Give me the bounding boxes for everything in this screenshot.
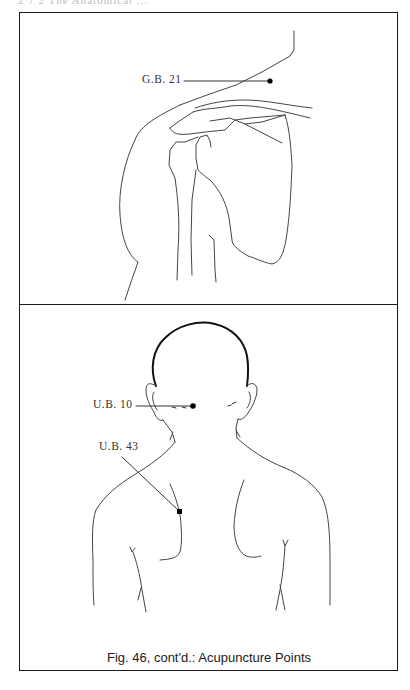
ub10-label: U.B. 10 xyxy=(93,398,133,410)
gb21-label: G.B. 21 xyxy=(142,73,182,85)
shoulder-drawing xyxy=(120,31,312,300)
figure-caption: Fig. 46, cont'd.: Acupuncture Points xyxy=(20,650,398,665)
gb21-point xyxy=(267,78,272,83)
ub43-point xyxy=(177,509,182,514)
ub10-point xyxy=(190,403,196,409)
back-drawing xyxy=(92,323,330,612)
anatomy-illustration xyxy=(0,0,410,690)
ub43-label: U.B. 43 xyxy=(99,440,139,452)
